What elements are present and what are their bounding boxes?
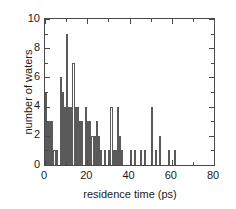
histogram-bar: [134, 150, 136, 165]
x-axis-tick-label: 80: [193, 170, 233, 181]
x-axis-minor-tick-top: [151, 19, 152, 22]
x-axis-major-tick: [172, 160, 173, 165]
y-axis-tick-labels: 0246810: [8, 18, 40, 166]
y-axis-minor-tick: [45, 63, 48, 64]
x-axis-minor-tick: [66, 162, 67, 165]
x-axis-major-tick: [214, 160, 215, 165]
y-axis-major-tick-right: [209, 107, 214, 108]
y-axis-major-tick: [45, 107, 50, 108]
x-axis-tick-label: 20: [66, 170, 106, 181]
y-axis-major-tick-right: [209, 48, 214, 49]
x-axis-major-tick-top: [130, 19, 131, 24]
y-axis-tick-label: 10: [10, 13, 40, 24]
x-axis-major-tick: [130, 160, 131, 165]
x-axis-tick-label: 0: [24, 170, 64, 181]
histogram-bar: [100, 150, 102, 165]
y-axis-tick-label: 8: [10, 42, 40, 53]
histogram-bar: [155, 150, 157, 165]
x-axis-title: residence time (ps): [40, 188, 220, 200]
y-axis-major-tick-right: [209, 136, 214, 137]
x-axis-major-tick: [45, 160, 46, 165]
plot-frame: [44, 18, 215, 166]
y-axis-minor-tick-right: [211, 150, 214, 151]
histogram-bar: [144, 150, 146, 165]
x-axis-tick-labels: 020406080: [44, 170, 215, 184]
histogram-bar: [174, 150, 176, 165]
histogram-bar: [104, 150, 106, 165]
x-axis-minor-tick: [193, 162, 194, 165]
x-axis-major-tick-top: [214, 19, 215, 24]
x-axis-tick-label: 40: [109, 170, 149, 181]
y-axis-tick-label: 0: [10, 159, 40, 170]
histogram-bar: [56, 150, 58, 165]
histogram-bar: [159, 136, 161, 165]
y-axis-major-tick: [45, 165, 50, 166]
x-axis-minor-tick-top: [108, 19, 109, 22]
histogram-bar: [121, 150, 123, 165]
x-axis-major-tick-top: [172, 19, 173, 24]
y-axis-tick-label: 6: [10, 71, 40, 82]
plot-area: [45, 19, 214, 165]
y-axis-major-tick: [45, 48, 50, 49]
y-axis-tick-label: 2: [10, 129, 40, 140]
y-axis-minor-tick-right: [211, 121, 214, 122]
histogram-bar: [140, 150, 142, 165]
y-axis-minor-tick-right: [211, 63, 214, 64]
y-axis-minor-tick: [45, 92, 48, 93]
y-axis-major-tick: [45, 136, 50, 137]
x-axis-major-tick: [87, 160, 88, 165]
histogram-figure: number of waters 0246810 020406080 resid…: [0, 0, 236, 209]
y-axis-minor-tick-right: [211, 34, 214, 35]
x-axis-minor-tick-top: [193, 19, 194, 22]
y-axis-minor-tick: [45, 150, 48, 151]
y-axis-minor-tick: [45, 34, 48, 35]
x-axis-major-tick-top: [45, 19, 46, 24]
histogram-bar: [168, 150, 170, 165]
y-axis-minor-tick-right: [211, 92, 214, 93]
histogram-bar: [151, 107, 153, 165]
x-axis-minor-tick-top: [66, 19, 67, 22]
x-axis-tick-label: 60: [151, 170, 191, 181]
x-axis-minor-tick: [151, 162, 152, 165]
y-axis-major-tick-right: [209, 77, 214, 78]
y-axis-major-tick: [45, 77, 50, 78]
y-axis-minor-tick: [45, 121, 48, 122]
y-axis-tick-label: 4: [10, 100, 40, 111]
histogram-bar: [81, 121, 83, 165]
x-axis-major-tick-top: [87, 19, 88, 24]
y-axis-major-tick-right: [209, 165, 214, 166]
x-axis-minor-tick: [108, 162, 109, 165]
